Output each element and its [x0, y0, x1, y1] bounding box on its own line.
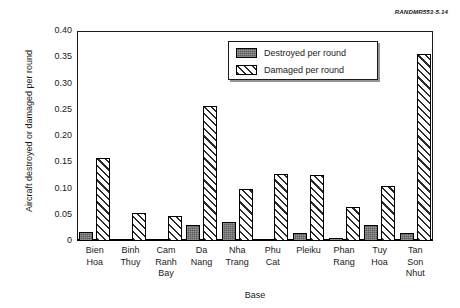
x-axis-tick-label-line: Cat — [255, 257, 291, 269]
x-axis-tick-label: TuyHoa — [362, 245, 398, 268]
bar-chart-figure: RANDMR553-5.14 Aircraft destroyed or dam… — [0, 0, 460, 308]
x-axis-tick-label: TanSonNhut — [397, 245, 433, 280]
x-axis-tick-label: PhanRang — [326, 245, 362, 268]
x-axis-tick-label-line: Tuy — [362, 245, 398, 257]
y-axis-tick-label: 0.40 — [38, 26, 72, 35]
x-axis-tick-label-line: Da — [184, 245, 220, 257]
x-axis-tick-label-line: Trang — [219, 257, 255, 269]
x-axis-tick-label-line: Pleiku — [291, 245, 327, 257]
bar-damaged — [168, 216, 182, 241]
y-axis-tick-labels: 00.050.100.150.200.250.300.350.40 — [36, 0, 72, 308]
x-axis-tick-label-line: Bay — [148, 268, 184, 280]
y-axis-tick-label: 0.15 — [38, 157, 72, 166]
x-axis-tick-labels: BienHoaBinhThuyCamRanhBayDaNangNhaTrangP… — [77, 245, 433, 291]
source-credit-tag: RANDMR553-5.14 — [395, 8, 448, 15]
legend-swatch-destroyed-icon — [236, 48, 257, 58]
y-axis-tick-label: 0.25 — [38, 105, 72, 114]
bar-damaged — [346, 207, 360, 241]
x-axis-tick-label-line: Phu — [255, 245, 291, 257]
y-axis-title: Aircraft destroyed or damaged per round — [22, 16, 36, 246]
bar-group — [186, 31, 217, 241]
chart-legend: Destroyed per round Damaged per round — [228, 41, 378, 80]
legend-label-destroyed: Destroyed per round — [264, 48, 346, 58]
x-axis-tick-label: BienHoa — [77, 245, 113, 268]
x-axis-tick-label: NhaTrang — [219, 245, 255, 268]
bar-destroyed — [293, 233, 307, 241]
y-axis-tick-label: 0.35 — [38, 52, 72, 61]
bar-damaged — [310, 175, 324, 241]
x-axis-tick-label-line: Hoa — [77, 257, 113, 269]
bar-destroyed — [222, 222, 236, 241]
bar-destroyed — [364, 225, 378, 241]
bar-destroyed — [329, 238, 343, 241]
x-axis-title: Base — [77, 290, 433, 300]
x-axis-tick-label-line: Bien — [77, 245, 113, 257]
bar-destroyed — [186, 225, 200, 241]
bar-damaged — [417, 54, 431, 241]
legend-swatch-damaged-icon — [236, 65, 257, 75]
bar-damaged — [96, 158, 110, 241]
bar-damaged — [203, 106, 217, 241]
bar-destroyed — [115, 239, 129, 241]
bar-damaged — [132, 213, 146, 241]
bar-group — [79, 31, 110, 241]
y-axis-tick-label: 0.10 — [38, 184, 72, 193]
x-axis-tick-label: BinhThuy — [113, 245, 149, 268]
y-axis-tick-label: 0 — [38, 236, 72, 245]
x-axis-tick-label-line: Nang — [184, 257, 220, 269]
bar-damaged — [239, 189, 253, 242]
x-axis-tick-label-line: Rang — [326, 257, 362, 269]
y-axis-tick-label: 0.20 — [38, 131, 72, 140]
x-axis-tick-label-line: Nha — [219, 245, 255, 257]
x-axis-tick-label: PhuCat — [255, 245, 291, 268]
bar-damaged — [381, 186, 395, 241]
x-axis-tick-label: CamRanhBay — [148, 245, 184, 280]
y-axis-tick-label: 0.05 — [38, 210, 72, 219]
x-axis-tick-label-line: Ranh — [148, 257, 184, 269]
legend-item-destroyed: Destroyed per round — [236, 46, 346, 60]
bar-group — [115, 31, 146, 241]
x-axis-tick-label-line: Tan — [397, 245, 433, 257]
bar-damaged — [274, 174, 288, 241]
bar-group — [151, 31, 182, 241]
x-axis-tick-label: DaNang — [184, 245, 220, 268]
x-axis-tick-label-line: Phan — [326, 245, 362, 257]
x-axis-tick-label-line: Thuy — [113, 257, 149, 269]
legend-label-damaged: Damaged per round — [264, 65, 344, 75]
x-axis-tick-label: Pleiku — [291, 245, 327, 257]
legend-item-damaged: Damaged per round — [236, 63, 344, 77]
bar-destroyed — [400, 233, 414, 241]
bar-group — [400, 31, 431, 241]
x-axis-tick-label-line: Son — [397, 257, 433, 269]
x-axis-tick-label-line: Cam — [148, 245, 184, 257]
bar-destroyed — [79, 232, 93, 241]
x-axis-tick-label-line: Binh — [113, 245, 149, 257]
x-axis-tick-label-line: Nhut — [397, 268, 433, 280]
y-axis-tick-label: 0.30 — [38, 79, 72, 88]
x-axis-tick-label-line: Hoa — [362, 257, 398, 269]
